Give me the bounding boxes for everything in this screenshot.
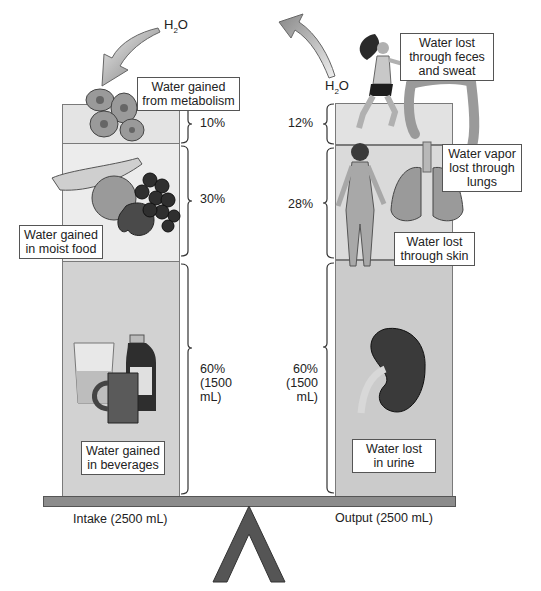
- label-line: in beverages: [86, 458, 160, 472]
- label-line: Water gained: [86, 444, 160, 458]
- label-urine: Water lost in urine: [352, 439, 436, 473]
- label-line: lost through: [447, 161, 517, 175]
- output-pct-feces-sweat: 12%: [288, 116, 313, 130]
- label-line: Water lost: [399, 235, 470, 249]
- fulcrum-icon: [209, 506, 289, 586]
- label-line: Water lost: [357, 442, 431, 456]
- label-line: from metabolism: [142, 94, 235, 108]
- pct-line: (1500: [286, 376, 318, 390]
- human-body-icon: [330, 140, 390, 270]
- beverages-icon: [72, 333, 172, 433]
- label-line: Water vapor: [447, 147, 517, 161]
- label-line: through feces: [405, 50, 489, 64]
- label-line: Water gained: [142, 80, 235, 94]
- label-moist-food: Water gained in moist food: [19, 225, 103, 259]
- pct-line: (1500: [200, 376, 232, 390]
- label-line: and sweat: [405, 64, 489, 78]
- pct-line: mL): [286, 390, 318, 404]
- label-metabolism: Water gained from metabolism: [137, 77, 240, 111]
- output-pct-lungs-skin: 28%: [288, 197, 313, 211]
- label-line: Water lost: [405, 36, 489, 50]
- label-line: in moist food: [24, 242, 98, 256]
- intake-pct-beverages: 60% (1500 mL): [200, 362, 232, 404]
- intake-h2o-label: H2O: [164, 17, 188, 35]
- pct-line: 60%: [200, 362, 232, 376]
- label-line: Water gained: [24, 228, 98, 242]
- output-total-label: Output (2500 mL): [335, 511, 433, 525]
- label-feces-sweat: Water lost through feces and sweat: [400, 33, 494, 81]
- label-skin: Water lost through skin: [394, 232, 475, 266]
- pct-line: 60%: [286, 362, 318, 376]
- label-line: in urine: [357, 456, 431, 470]
- intake-pct-metabolism: 10%: [200, 116, 225, 130]
- intake-pct-moist-food: 30%: [200, 192, 225, 206]
- label-lungs: Water vapor lost through lungs: [442, 144, 522, 192]
- label-line: through skin: [399, 249, 470, 263]
- kidney-icon: [355, 325, 435, 425]
- label-line: lungs: [447, 175, 517, 189]
- intake-total-label: Intake (2500 mL): [73, 512, 168, 526]
- output-pct-urine: 60% (1500 mL): [286, 362, 318, 404]
- label-beverages: Water gained in beverages: [81, 441, 165, 475]
- pct-line: mL): [200, 390, 232, 404]
